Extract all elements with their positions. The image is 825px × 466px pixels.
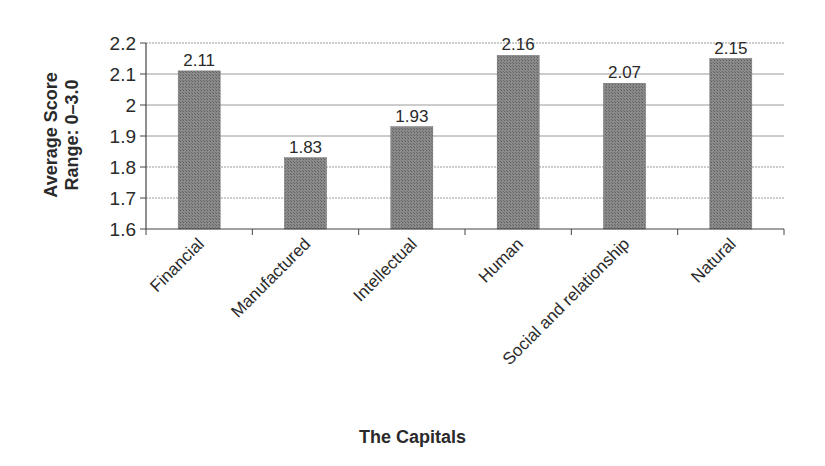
data-label: 2.07	[608, 63, 641, 82]
data-label: 2.16	[502, 35, 535, 54]
x-tick-label: Intellectual	[350, 234, 421, 305]
bar-social-and-relationship	[604, 83, 646, 229]
y-tick-label: 2	[125, 95, 136, 116]
x-tick-label: Financial	[146, 234, 208, 296]
x-tick-label: Natural	[687, 234, 739, 286]
y-tick-label: 1.7	[110, 188, 136, 209]
y-tick-label: 1.8	[110, 157, 136, 178]
bars	[178, 55, 752, 229]
axes	[140, 43, 784, 235]
data-label: 1.83	[289, 138, 322, 157]
bar-natural	[710, 59, 752, 230]
bar-intellectual	[391, 127, 433, 229]
y-tick-label: 2.1	[110, 64, 136, 85]
x-tick-label: Manufactured	[227, 234, 314, 321]
gridlines	[146, 43, 784, 198]
y-tick-label: 1.9	[110, 126, 136, 147]
bar-chart: 1.61.71.81.922.12.22.11Financial1.83Manu…	[0, 0, 825, 466]
data-label: 2.11	[183, 51, 215, 70]
y-tick-label: 1.6	[110, 219, 136, 240]
y-tick-label: 2.2	[110, 33, 136, 54]
bar-manufactured	[285, 158, 327, 229]
x-tick-label: Human	[475, 234, 527, 286]
data-label: 2.15	[714, 39, 747, 58]
bar-human	[497, 55, 539, 229]
x-axis-title: The Capitals	[0, 427, 825, 448]
bar-financial	[178, 71, 220, 229]
data-label: 1.93	[395, 107, 428, 126]
